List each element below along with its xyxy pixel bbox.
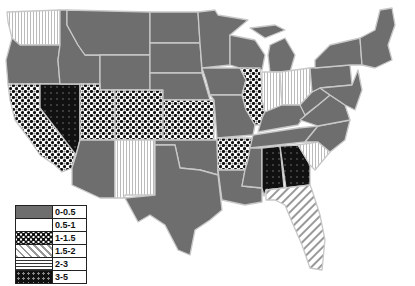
legend-label: 1-1.5 [53, 232, 76, 244]
state-utah [80, 84, 115, 140]
state-north-dakota [150, 12, 200, 43]
legend-swatch-dots [16, 232, 53, 244]
state-iowa [202, 68, 246, 95]
map-legend: 0-0.5 0.5-1 1-1.5 1.5-2 2-3 3-5 [15, 205, 87, 284]
legend-row: 1.5-2 [16, 245, 86, 258]
legend-label: 0.5-1 [53, 219, 76, 231]
state-kansas [163, 100, 214, 140]
state-new-york [315, 38, 362, 68]
legend-row: 0-0.5 [16, 206, 86, 219]
legend-row: 3-5 [16, 271, 86, 283]
state-colorado [115, 90, 163, 140]
state-new-england [360, 8, 395, 68]
state-oregon [6, 38, 60, 84]
legend-label: 1.5-2 [53, 245, 76, 257]
legend-row: 0.5-1 [16, 219, 86, 232]
legend-swatch-diagonal-hatch [16, 245, 53, 257]
state-arizona [72, 140, 115, 198]
legend-swatch-solid-gray [16, 206, 53, 218]
legend-row: 1-1.5 [16, 232, 86, 245]
state-new-mexico [115, 140, 155, 198]
legend-label: 3-5 [53, 271, 68, 283]
state-florida [266, 185, 325, 270]
state-wisconsin [230, 35, 265, 70]
legend-swatch-white [16, 219, 53, 231]
state-south-dakota [150, 43, 202, 73]
legend-swatch-black-dots [16, 271, 53, 283]
legend-label: 2-3 [53, 258, 68, 270]
legend-swatch-lines [16, 258, 53, 270]
legend-label: 0-0.5 [53, 206, 76, 218]
legend-row: 2-3 [16, 258, 86, 271]
state-wyoming [100, 55, 150, 90]
